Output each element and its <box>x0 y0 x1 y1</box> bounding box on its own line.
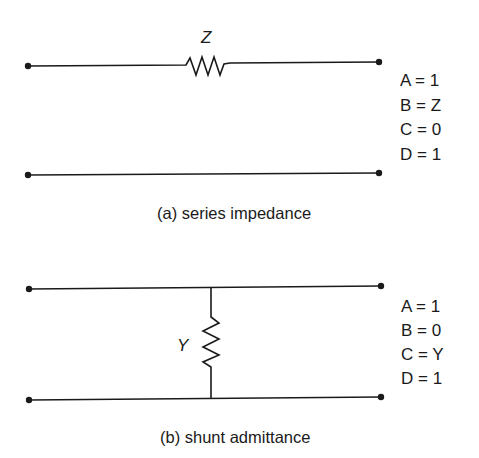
param-b: B = 0 <box>401 322 441 339</box>
caption-b: (b) shunt admittance <box>160 429 310 446</box>
circuit-diagrams <box>0 0 479 458</box>
top-wire <box>29 286 381 289</box>
terminals-a <box>25 59 382 178</box>
param-c: C = 0 <box>400 121 441 138</box>
shunt-resistor <box>203 288 219 398</box>
param-a: A = 1 <box>401 298 440 315</box>
bottom-wire <box>29 397 381 400</box>
param-b: B = Z <box>400 97 441 114</box>
admittance-label: Y <box>177 337 188 354</box>
shunt-admittance-circuit <box>29 286 381 400</box>
param-c: C = Y <box>401 346 444 363</box>
impedance-label: Z <box>201 29 211 46</box>
param-a: A = 1 <box>400 72 439 89</box>
terminals-b <box>26 283 384 403</box>
param-d: D = 1 <box>401 370 442 387</box>
series-impedance-circuit <box>28 57 379 175</box>
top-wire-with-resistor <box>28 57 379 75</box>
bottom-wire <box>28 173 379 175</box>
param-d: D = 1 <box>400 146 441 163</box>
caption-a: (a) series impedance <box>157 205 311 222</box>
